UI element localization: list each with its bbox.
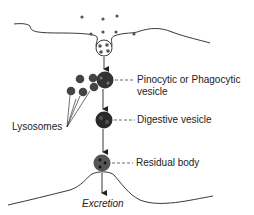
residual-label: Residual body	[136, 157, 199, 168]
digestive-label: Digestive vesicle	[137, 114, 211, 125]
digestive-vesicle	[96, 112, 113, 129]
pinocytic-vesicle	[97, 72, 114, 89]
pinocytic-label-line2: vesicle	[137, 86, 168, 97]
lysosomes	[67, 74, 99, 97]
lysosomes-label: Lysosomes	[12, 121, 62, 132]
residual-body	[94, 155, 111, 172]
pinocytic-label: Pinocytic or Phagocytic	[137, 74, 240, 85]
particles	[80, 14, 135, 35]
excretion-label: Excretion	[82, 198, 124, 209]
top-membrane	[14, 24, 210, 46]
forming-vesicle	[96, 40, 112, 56]
endocytosis-diagram	[0, 0, 254, 215]
